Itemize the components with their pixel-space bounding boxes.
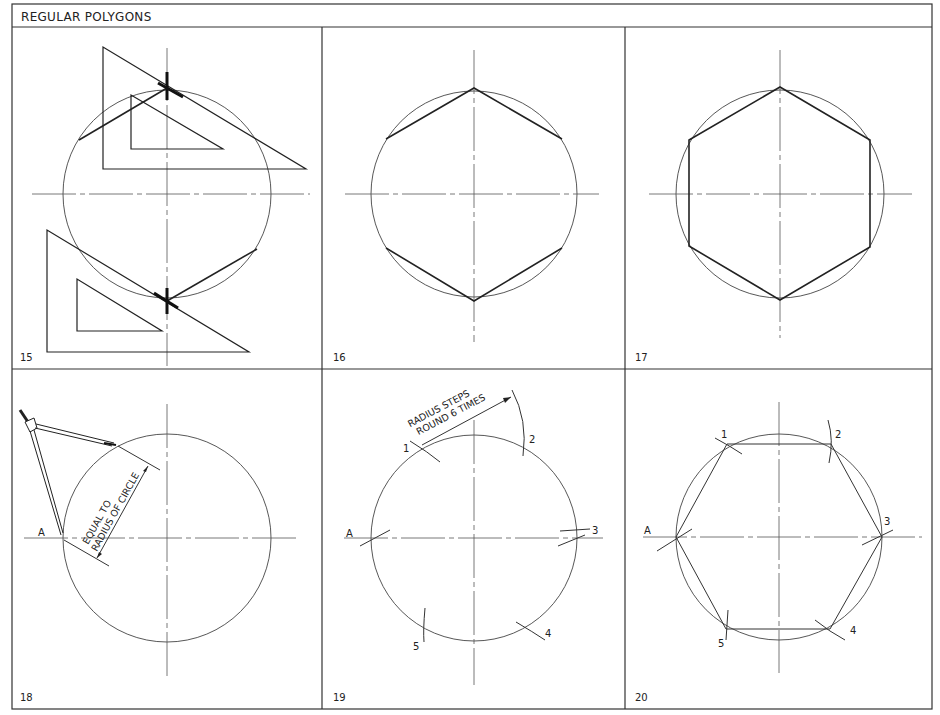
arc-mark-2	[512, 390, 524, 456]
arc-mark-3	[862, 530, 893, 545]
panel-18: A EQUAL TO RADIUS OF CIRCLE 18	[20, 404, 296, 703]
panel-number: 18	[20, 692, 33, 703]
panel-number: 20	[635, 692, 648, 703]
regular-polygons-sheet: REGULAR POLYGONS 15 16 17	[0, 0, 940, 715]
panel-20: A 1 2 3 4 5 20	[635, 402, 922, 703]
panel-number: 17	[635, 352, 648, 363]
panel-number: 16	[333, 352, 346, 363]
arc-mark-4	[815, 620, 845, 640]
arrowhead	[503, 397, 511, 403]
outer-frame	[12, 4, 932, 709]
panel-16: 16	[333, 50, 599, 363]
panel-17: 17	[635, 50, 912, 363]
arc-mark-1	[410, 441, 440, 462]
arc-mark-1	[715, 438, 742, 454]
sheet-title: REGULAR POLYGONS	[21, 10, 152, 24]
hexagon-side	[79, 88, 167, 140]
point-label-5: 5	[718, 638, 724, 649]
point-label-a: A	[644, 525, 651, 536]
point-label-1: 1	[403, 443, 409, 454]
arrowhead	[143, 466, 148, 472]
point-label-3: 3	[884, 516, 890, 527]
point-label-2: 2	[529, 434, 535, 445]
arc-mark-2	[828, 420, 831, 463]
set-square-upper-cutout	[131, 95, 223, 149]
point-label-3: 3	[592, 525, 598, 536]
point-label-2: 2	[835, 429, 841, 440]
panel-19: RADIUS STEPS ROUND 6 TIMES A 1 2 3 4 5 1…	[333, 382, 603, 703]
extension-line	[118, 446, 160, 470]
panel-number: 15	[20, 352, 33, 363]
point-label-5: 5	[413, 641, 419, 652]
arc-mark-3	[558, 529, 590, 546]
point-label-a: A	[346, 528, 353, 539]
arc-mark-5	[424, 608, 425, 642]
panel-number: 19	[333, 692, 346, 703]
point-label-4: 4	[850, 625, 856, 636]
point-label-4: 4	[545, 628, 551, 639]
arc-mark-a	[657, 529, 692, 551]
panel-15: 15	[20, 47, 310, 366]
point-label-1: 1	[721, 429, 727, 440]
hexagon-side	[167, 249, 257, 301]
arc-mark-4	[516, 622, 545, 640]
hexagon	[689, 87, 870, 300]
point-label-a: A	[38, 527, 45, 538]
